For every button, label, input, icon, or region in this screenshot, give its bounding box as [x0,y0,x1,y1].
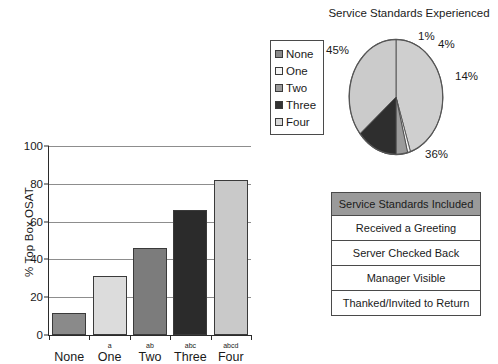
x-label-text: One [98,350,122,364]
table-cell: Server Checked Back [332,241,481,266]
y-tick-label: 60 [30,216,43,228]
table-row: Server Checked Back [332,241,481,266]
table-row: Received a Greeting [332,216,481,241]
y-tick-label: 40 [30,253,43,265]
y-tick-label: 20 [30,291,43,303]
bar-group[interactable] [49,146,89,335]
legend-item-four[interactable]: Four [275,113,320,130]
x-label-superscript: ab [130,342,170,350]
bar-group[interactable] [211,146,251,335]
y-tick-label: 100 [24,140,43,152]
legend-item-two[interactable]: Two [275,79,320,96]
x-tick-mark [251,335,252,340]
pie-label-36pct: 36% [425,148,448,160]
table-cell: Manager Visible [332,266,481,291]
pie-label-1pct: 1% [418,30,435,42]
legend-item-label: Three [286,99,316,111]
legend-swatch-icon [275,50,283,58]
pie-chart-title: Service Standards Experienced [320,7,498,19]
table-header-row: Service Standards Included [332,193,481,216]
legend-item-label: None [286,48,314,60]
bar-group[interactable] [170,146,210,335]
pie-chart: Service Standards Experienced 45%1%4%14%… [320,0,498,180]
x-tick-mark [89,335,90,340]
x-label-superscript: a [89,342,129,350]
bar-one[interactable] [93,276,127,335]
legend-item-three[interactable]: Three [275,96,320,113]
bar-chart: % Top Box OSAT 020406080100 NoneaOneabTw… [0,134,265,364]
x-tick-mark [49,335,50,340]
y-tick-label: 80 [30,178,43,190]
pie-label-4pct: 4% [438,38,455,50]
x-tick-mark [130,335,131,340]
bar-group[interactable] [89,146,129,335]
legend-item-label: One [286,65,308,77]
x-label-superscript: abc [170,342,210,350]
bar-three[interactable] [173,210,207,335]
chart-legend: NoneOneTwoThreeFour [270,40,324,135]
legend-item-label: Two [286,82,307,94]
pie-label-14pct: 14% [455,70,478,82]
bar-two[interactable] [133,248,167,335]
table-header-cell: Service Standards Included [332,193,481,216]
x-label-text: Four [218,350,244,364]
table-cell: Thanked/Invited to Return [332,291,481,316]
x-tick-label-four: abcdFour [211,342,251,364]
table-row: Manager Visible [332,266,481,291]
legend-swatch-icon [275,84,283,92]
x-tick-label-none: None [49,342,89,364]
legend-item-none[interactable]: None [275,45,320,62]
bar-none[interactable] [52,313,86,335]
legend-item-label: Four [286,116,310,128]
x-label-text: Two [139,350,162,364]
bar-plot-area: 020406080100 NoneaOneabTwoabcThreeabcdFo… [48,146,251,336]
bar-group[interactable] [130,146,170,335]
y-tick-label: 0 [37,329,43,341]
legend-swatch-icon [275,118,283,126]
legend-swatch-icon [275,67,283,75]
x-label-superscript [49,342,89,350]
x-tick-label-one: aOne [89,342,129,364]
x-label-text: None [54,350,84,364]
x-tick-mark [170,335,171,340]
pie-svg [348,38,444,156]
x-tick-label-three: abcThree [170,342,210,364]
table-cell: Received a Greeting [332,216,481,241]
table-row: Thanked/Invited to Return [332,291,481,316]
x-label-text: Three [174,350,207,364]
bar-four[interactable] [214,180,248,335]
pie-label-45pct: 45% [326,44,349,56]
pie-graphic [348,38,444,156]
legend-swatch-icon [275,101,283,109]
service-standards-table: Service Standards IncludedReceived a Gre… [331,192,481,316]
x-tick-mark [211,335,212,340]
figure-panel: % Top Box OSAT 020406080100 NoneaOneabTw… [0,0,498,364]
legend-item-one[interactable]: One [275,62,320,79]
x-tick-label-two: abTwo [130,342,170,364]
x-label-superscript: abcd [211,342,251,350]
